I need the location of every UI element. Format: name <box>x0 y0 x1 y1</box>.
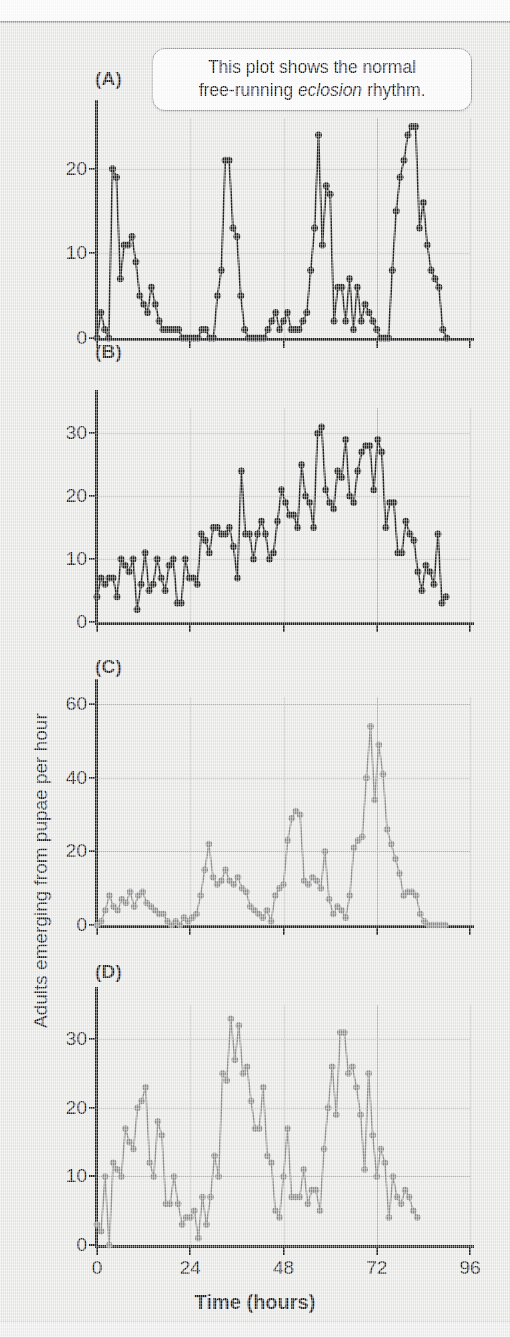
data-point-marker <box>199 1194 206 1201</box>
data-point-marker <box>114 1166 121 1173</box>
data-point-marker <box>300 1166 307 1173</box>
data-point-marker <box>187 1214 194 1221</box>
data-point-marker <box>167 1201 174 1208</box>
data-point-marker <box>150 1173 157 1180</box>
data-point-marker <box>227 1015 234 1022</box>
data-point-marker <box>353 1084 360 1091</box>
data-point-marker <box>382 1159 389 1166</box>
data-point-marker <box>402 1187 409 1194</box>
data-point-marker <box>365 1070 372 1077</box>
callout-emphasis-eclosion: eclosion <box>298 80 362 100</box>
data-point-marker <box>102 1173 109 1180</box>
data-point-marker <box>390 1173 397 1180</box>
data-point-marker <box>219 1070 226 1077</box>
data-point-marker <box>357 1111 364 1118</box>
data-point-marker <box>191 1207 198 1214</box>
data-point-marker <box>272 1207 279 1214</box>
data-point-marker <box>155 1118 162 1125</box>
data-point-marker <box>361 1166 368 1173</box>
data-point-marker <box>175 1201 182 1208</box>
data-point-marker <box>118 1173 125 1180</box>
data-point-marker <box>179 1221 186 1228</box>
data-point-marker <box>130 1146 137 1153</box>
data-point-marker <box>406 1194 413 1201</box>
data-point-marker <box>171 1173 178 1180</box>
data-point-marker <box>325 1105 332 1112</box>
data-point-marker <box>345 1070 352 1077</box>
callout-line-2-post: rhythm. <box>362 80 425 100</box>
data-point-marker <box>276 1214 283 1221</box>
data-point-marker <box>215 1173 222 1180</box>
top-white-strip <box>0 0 510 21</box>
data-point-marker <box>414 1214 421 1221</box>
data-point-marker <box>369 1132 376 1139</box>
data-point-marker <box>223 1077 230 1084</box>
data-point-marker <box>146 1159 153 1166</box>
data-point-marker <box>321 1146 328 1153</box>
data-point-marker <box>195 1235 202 1242</box>
series-polyline <box>97 1019 417 1245</box>
data-series-d <box>0 23 510 1321</box>
eclosion-rhythm-figure: Adults emerging from pupae per hour (A) … <box>0 23 510 1321</box>
data-point-marker <box>126 1139 133 1146</box>
data-point-marker <box>341 1029 348 1036</box>
data-point-marker <box>244 1063 251 1070</box>
data-point-marker <box>122 1125 129 1132</box>
data-point-marker <box>284 1125 291 1132</box>
data-point-marker <box>394 1194 401 1201</box>
data-point-marker <box>138 1098 145 1105</box>
callout-annotation: This plot shows the normal free-running … <box>152 48 472 111</box>
data-point-marker <box>378 1146 385 1153</box>
data-point-marker <box>280 1173 287 1180</box>
data-point-marker <box>142 1084 149 1091</box>
data-point-marker <box>159 1132 166 1139</box>
data-point-marker <box>211 1153 218 1160</box>
x-axis-title: Time (hours) <box>0 1291 510 1314</box>
data-point-marker <box>207 1194 214 1201</box>
data-point-marker <box>296 1194 303 1201</box>
data-point-marker <box>256 1125 263 1132</box>
data-point-marker <box>398 1201 405 1208</box>
data-point-marker <box>305 1201 312 1208</box>
data-point-marker <box>236 1022 243 1029</box>
data-point-marker <box>134 1105 141 1112</box>
callout-line-2-pre: free-running <box>199 80 298 100</box>
data-point-marker <box>98 1228 105 1235</box>
data-point-marker <box>110 1159 117 1166</box>
data-point-marker <box>268 1159 275 1166</box>
data-point-marker <box>260 1084 267 1091</box>
data-point-marker <box>373 1173 380 1180</box>
data-point-marker <box>248 1098 255 1105</box>
data-point-marker <box>349 1063 356 1070</box>
data-point-marker <box>313 1187 320 1194</box>
data-point-marker <box>410 1207 417 1214</box>
data-point-marker <box>264 1153 271 1160</box>
data-point-marker <box>203 1221 210 1228</box>
data-point-marker <box>94 1221 101 1228</box>
data-point-marker <box>317 1207 324 1214</box>
data-point-marker <box>329 1063 336 1070</box>
data-point-marker <box>232 1057 239 1064</box>
data-point-marker <box>333 1111 340 1118</box>
callout-line-1: This plot shows the normal <box>208 57 416 77</box>
bottom-strip <box>0 1322 510 1337</box>
data-point-marker <box>106 1242 113 1249</box>
data-point-marker <box>386 1214 393 1221</box>
data-point-marker <box>240 1070 247 1077</box>
